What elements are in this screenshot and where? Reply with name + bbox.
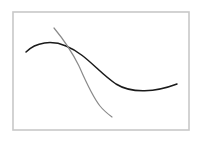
diagram-canvas (0, 0, 199, 143)
diagram-svg (0, 0, 199, 143)
gray-curve (54, 28, 112, 117)
dark-curve (26, 43, 177, 91)
